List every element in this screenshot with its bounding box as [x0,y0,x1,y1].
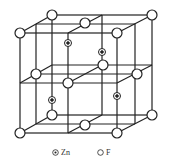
legend-item-f: F [97,148,110,157]
zn-atom [114,93,121,100]
f-atom [31,69,41,79]
f-atom [98,60,108,70]
f-atom [132,69,142,79]
legend-label-zn: Zn [61,148,70,157]
f-atom [63,78,73,88]
f-atom [47,10,57,20]
f-atom [147,10,157,20]
legend-label-f: F [106,148,110,157]
f-atom [80,18,90,28]
zn-atom-icon [52,149,59,156]
crystal-structure-diagram [0,0,169,157]
f-atom [47,110,57,120]
f-atom-icon [97,149,104,156]
f-atom [147,110,157,120]
legend: Zn F [0,148,169,157]
zn-atom [99,49,106,56]
legend-item-zn: Zn [52,148,70,157]
zn-atom [49,97,56,104]
zn-atom [65,40,72,47]
f-atom [112,128,122,138]
f-atom [112,28,122,38]
f-atom [80,120,90,130]
f-atom [15,128,25,138]
f-atom [15,28,25,38]
zn-atoms [49,40,121,104]
